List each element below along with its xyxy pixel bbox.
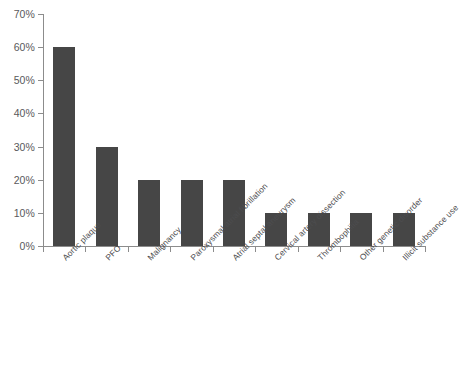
- x-axis-tick: [85, 247, 86, 252]
- y-axis-tick-label: 30%: [0, 142, 35, 153]
- y-axis-tick-label: 50%: [0, 75, 35, 86]
- x-axis-tick: [425, 247, 426, 252]
- x-axis-tick: [128, 247, 129, 252]
- bar: [96, 147, 118, 246]
- y-axis-tick-label: 0%: [0, 241, 35, 252]
- x-axis-tick: [43, 247, 44, 252]
- y-axis-tick-label: 10%: [0, 208, 35, 219]
- y-axis-tick-label: 40%: [0, 108, 35, 119]
- bar: [181, 180, 203, 246]
- x-axis-tick: [213, 247, 214, 252]
- x-axis-tick: [340, 247, 341, 252]
- bar: [53, 47, 75, 246]
- x-axis-tick: [383, 247, 384, 252]
- x-axis-tick: [170, 247, 171, 252]
- x-axis-tick: [298, 247, 299, 252]
- x-axis-tick: [255, 247, 256, 252]
- y-axis-tick-label: 20%: [0, 175, 35, 186]
- bar: [138, 180, 160, 246]
- y-axis-tick-label: 70%: [0, 9, 35, 20]
- y-axis-tick-label: 60%: [0, 42, 35, 53]
